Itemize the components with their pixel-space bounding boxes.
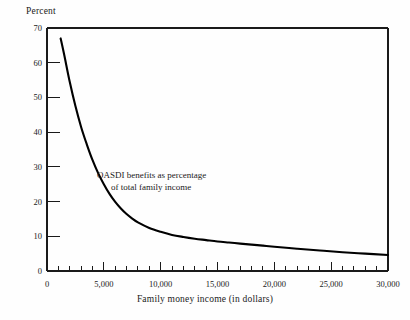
series-annotation: OASDI benefits as percentage of total fa… bbox=[97, 170, 206, 193]
x-axis-tick-label: 20,000 bbox=[252, 279, 296, 289]
chart-figure: Percent Family money income (in dollars)… bbox=[0, 0, 410, 320]
x-axis-tick-label: 15,000 bbox=[196, 279, 240, 289]
y-axis-tick-label: 20 bbox=[20, 197, 42, 207]
annotation-line-2: of total family income bbox=[97, 182, 206, 194]
y-axis-tick-label: 70 bbox=[20, 23, 42, 33]
annotation-line-1: OASDI benefits as percentage bbox=[97, 170, 206, 180]
chart-canvas bbox=[0, 0, 410, 320]
y-axis-tick-label: 30 bbox=[20, 162, 42, 172]
x-axis-tick-label: 0 bbox=[25, 279, 69, 289]
y-axis-tick-label: 10 bbox=[20, 231, 42, 241]
y-axis-tick-label: 0 bbox=[20, 266, 42, 276]
y-axis-tick-label: 40 bbox=[20, 127, 42, 137]
x-axis-tick-label: 5,000 bbox=[82, 279, 126, 289]
x-axis-tick-label: 10,000 bbox=[139, 279, 183, 289]
x-axis-tick-label: 25,000 bbox=[309, 279, 353, 289]
y-axis-tick-label: 60 bbox=[20, 58, 42, 68]
y-axis-major-ticks bbox=[47, 63, 60, 237]
data-series-layer bbox=[61, 38, 388, 255]
x-axis-title: Family money income (in dollars) bbox=[0, 294, 410, 304]
y-axis-title: Percent bbox=[26, 6, 56, 16]
x-axis-tick-label: 30,000 bbox=[366, 279, 410, 289]
y-axis-tick-label: 50 bbox=[20, 92, 42, 102]
plot-frame bbox=[47, 28, 388, 271]
